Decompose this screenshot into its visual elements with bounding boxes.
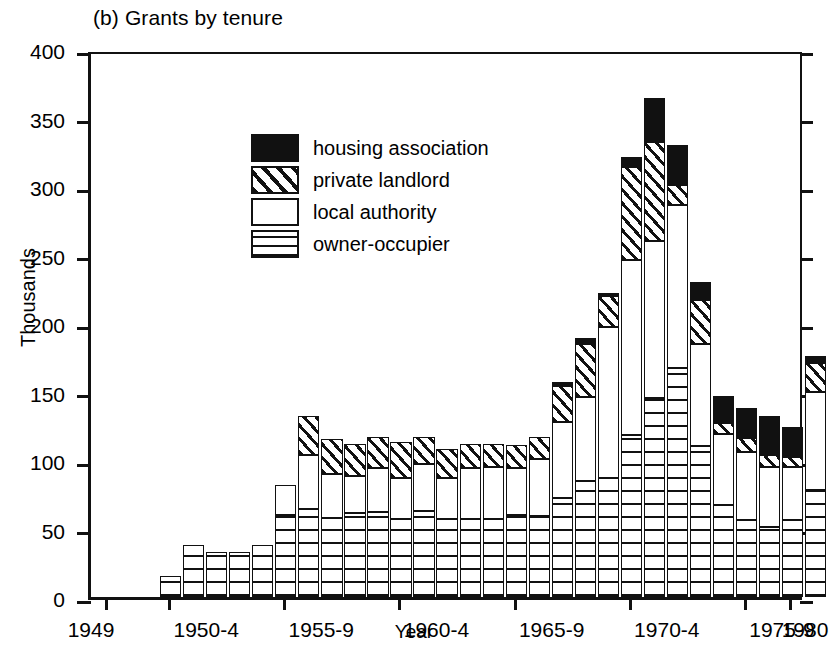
bar-segment-private-landlord	[759, 455, 780, 467]
y-axis-tick-label: 100	[0, 451, 65, 475]
bar-segment-owner-occupier	[598, 478, 619, 597]
bar-segment-local-authority	[667, 205, 688, 368]
chart-legend: housing associationprivate landlordlocal…	[251, 132, 489, 260]
bar-segment-local-authority	[436, 478, 457, 519]
y-axis-tick	[77, 395, 91, 398]
right-axis-tick	[800, 53, 813, 56]
y-axis-tick	[77, 327, 91, 330]
bar-segment-private-landlord	[782, 457, 803, 467]
bar-segment-private-landlord	[736, 438, 757, 452]
bar-segment-owner-occupier	[529, 516, 550, 597]
y-axis-tick	[77, 464, 91, 467]
y-axis-tick	[77, 532, 91, 535]
legend-swatch-ha	[251, 134, 299, 162]
bar-segment-local-authority	[736, 452, 757, 521]
bar-segment-owner-occupier	[183, 545, 204, 597]
bar-segment-owner-occupier	[713, 505, 734, 597]
y-axis-tick	[77, 53, 91, 56]
bar-segment-owner-occupier	[759, 527, 780, 597]
bar-segment-owner-occupier	[298, 509, 319, 597]
bar-segment-housing-association	[782, 427, 803, 457]
y-axis-tick-label: 200	[0, 314, 65, 338]
bar-segment-private-landlord	[436, 449, 457, 478]
bar-segment-private-landlord	[298, 416, 319, 454]
bar-segment-owner-occupier	[229, 552, 250, 597]
bar-segment-local-authority	[460, 468, 481, 519]
y-axis-tick-label: 350	[0, 109, 65, 133]
legend-swatch-oo	[251, 230, 299, 258]
legend-label: housing association	[313, 137, 489, 160]
bar-segment-private-landlord	[506, 445, 527, 468]
bar-segment-local-authority	[483, 467, 504, 519]
bar-segment-owner-occupier	[436, 519, 457, 597]
bar-segment-owner-occupier	[552, 498, 573, 597]
bar-segment-private-landlord	[483, 444, 504, 467]
right-axis-tick	[800, 327, 813, 330]
bar-segment-owner-occupier	[367, 512, 388, 597]
bar-segment-housing-association	[575, 338, 596, 343]
bar-segment-local-authority	[529, 459, 550, 517]
bar-segment-private-landlord	[713, 423, 734, 434]
bar-segment-local-authority	[598, 327, 619, 478]
bar-segment-owner-occupier	[621, 435, 642, 597]
bar-segment-private-landlord	[344, 444, 365, 477]
bar-segment-private-landlord	[805, 363, 826, 392]
bar-segment-local-authority	[506, 468, 527, 515]
bar-segment-private-landlord	[644, 142, 665, 241]
bar-segment-housing-association	[805, 356, 826, 363]
x-axis-tick	[629, 597, 632, 610]
plot-area: 050100150200250300350400 19491950-41955-…	[88, 52, 802, 600]
bar-segment-owner-occupier	[160, 576, 181, 597]
legend-item: housing association	[251, 132, 489, 164]
right-axis-tick	[800, 258, 813, 261]
bar-segment-local-authority	[805, 392, 826, 491]
bar-segment-housing-association	[690, 282, 711, 300]
bar-segment-owner-occupier	[390, 519, 411, 597]
bar-segment-local-authority	[759, 467, 780, 527]
bar-segment-housing-association	[759, 416, 780, 454]
x-axis-tick	[168, 597, 171, 610]
bar-segment-local-authority	[644, 241, 665, 399]
x-axis-tick	[744, 597, 747, 610]
bar-segment-private-landlord	[413, 437, 434, 464]
bar-segment-local-authority	[575, 397, 596, 481]
y-axis-tick-label: 150	[0, 383, 65, 407]
bar-segment-owner-occupier	[252, 545, 273, 597]
right-axis-tick	[800, 601, 813, 604]
bar-segment-housing-association	[667, 145, 688, 185]
x-axis-tick	[105, 597, 108, 610]
bar-segment-owner-occupier	[644, 398, 665, 597]
bar-segment-housing-association	[621, 157, 642, 167]
bar-segment-local-authority	[690, 344, 711, 447]
right-axis-tick	[800, 121, 813, 124]
legend-label: owner-occupier	[313, 233, 450, 256]
y-axis-tick-label: 250	[0, 246, 65, 270]
bar-segment-owner-occupier	[782, 520, 803, 597]
y-axis-tick	[77, 258, 91, 261]
bar-segment-local-authority	[275, 485, 296, 515]
bar-segment-local-authority	[298, 455, 319, 510]
legend-swatch-la	[251, 198, 299, 226]
bar-segment-private-landlord	[621, 167, 642, 260]
bar-segment-private-landlord	[390, 442, 411, 478]
bar-segment-owner-occupier	[575, 481, 596, 597]
bar-segment-private-landlord	[460, 444, 481, 469]
bar-segment-local-authority	[782, 467, 803, 520]
legend-item: owner-occupier	[251, 228, 489, 260]
bar-segment-owner-occupier	[805, 490, 826, 597]
bar-segment-housing-association	[736, 408, 757, 438]
bar-segment-owner-occupier	[321, 518, 342, 597]
bar-segment-private-landlord	[321, 439, 342, 473]
bar-segment-housing-association	[644, 98, 665, 142]
bar-segment-private-landlord	[529, 437, 550, 459]
y-axis-tick-label: 400	[0, 40, 65, 64]
y-axis-tick-label: 300	[0, 177, 65, 201]
bar-segment-local-authority	[552, 422, 573, 499]
right-axis-tick	[800, 190, 813, 193]
bar-segment-local-authority	[321, 474, 342, 518]
bar-segment-local-authority	[390, 478, 411, 519]
bar-segment-local-authority	[344, 476, 365, 513]
bar-segment-owner-occupier	[506, 515, 527, 597]
chart-title: (b) Grants by tenure	[93, 6, 283, 30]
bar-segment-private-landlord	[690, 300, 711, 344]
